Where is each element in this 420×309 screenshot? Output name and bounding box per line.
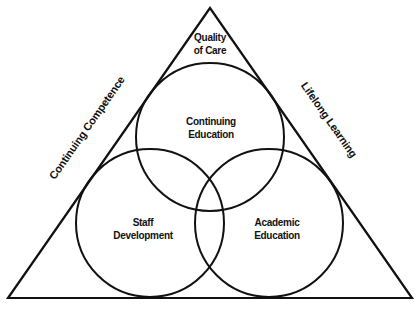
apex-label-line1: Quality [194, 32, 227, 43]
left-side-label: Continuing Competence [47, 74, 127, 182]
triangle-venn-diagram: Quality of Care Continuing Education Sta… [0, 0, 420, 309]
top-circle-label-line2: Education [188, 129, 234, 140]
right-circle-label-line2: Education [254, 230, 300, 241]
top-circle-label-line1: Continuing [186, 116, 236, 127]
apex-label-line2: of Care [194, 45, 227, 56]
left-circle-label-line2: Development [113, 230, 173, 241]
right-circle-label-line1: Academic [255, 217, 301, 228]
left-circle-label-line1: Staff [133, 217, 155, 228]
